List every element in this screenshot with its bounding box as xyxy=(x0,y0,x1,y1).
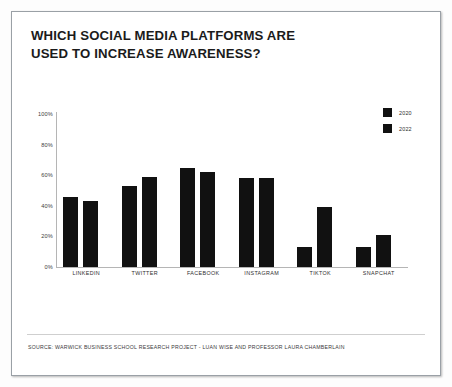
bar-group xyxy=(57,114,116,267)
bar-group xyxy=(116,114,175,267)
x-axis-label-instagram: INSTAGRAM xyxy=(233,270,291,276)
bar-group xyxy=(174,114,233,267)
legend-label: 2022 xyxy=(399,126,412,132)
chart-card: WHICH SOCIAL MEDIA PLATFORMS ARE USED TO… xyxy=(11,11,441,376)
legend-swatch-icon xyxy=(383,108,392,117)
bar-instagram-2020 xyxy=(239,178,254,267)
bar-twitter-2022 xyxy=(142,177,157,267)
chart-screenshot: WHICH SOCIAL MEDIA PLATFORMS ARE USED TO… xyxy=(0,0,452,387)
x-axis-label-snapchat: SNAPCHAT xyxy=(350,270,408,276)
x-axis-label-tiktok: TIKTOK xyxy=(291,270,349,276)
bar-snapchat-2020 xyxy=(356,247,371,267)
bar-facebook-2022 xyxy=(200,172,215,267)
y-axis-tick: 40% xyxy=(13,203,53,209)
x-axis-line xyxy=(56,267,408,268)
bar-snapchat-2022 xyxy=(376,235,391,267)
bar-facebook-2020 xyxy=(180,168,195,267)
bar-instagram-2022 xyxy=(259,178,274,267)
chart-plot-area: 100%80%60%40%20%0% LINKEDINTWITTERFACEBO… xyxy=(12,12,440,375)
bar-linkedin-2022 xyxy=(83,201,98,267)
bar-group xyxy=(233,114,292,267)
bar-group xyxy=(291,114,350,267)
chart-legend: 20202022 xyxy=(383,108,443,140)
y-axis-tick: 80% xyxy=(13,142,53,148)
legend-swatch-icon xyxy=(383,124,392,133)
bar-linkedin-2020 xyxy=(63,197,78,267)
y-axis-tick: 20% xyxy=(13,233,53,239)
y-axis-tick: 0% xyxy=(13,264,53,270)
legend-label: 2020 xyxy=(399,110,412,116)
legend-item-2020: 2020 xyxy=(383,108,443,117)
x-axis-label-facebook: FACEBOOK xyxy=(174,270,232,276)
bar-tiktok-2020 xyxy=(297,247,312,267)
y-axis-tick: 60% xyxy=(13,172,53,178)
bar-series-container xyxy=(57,114,408,267)
x-axis-label-twitter: TWITTER xyxy=(116,270,174,276)
bar-twitter-2020 xyxy=(122,186,137,267)
y-axis-tick-labels: 100%80%60%40%20%0% xyxy=(12,12,53,375)
legend-item-2022: 2022 xyxy=(383,124,443,133)
source-divider xyxy=(27,334,425,335)
source-caption: SOURCE: WARWICK BUSINESS SCHOOL RESEARCH… xyxy=(28,344,426,350)
bar-tiktok-2022 xyxy=(317,207,332,267)
x-axis-label-linkedin: LINKEDIN xyxy=(57,270,115,276)
y-axis-tick: 100% xyxy=(13,111,53,117)
